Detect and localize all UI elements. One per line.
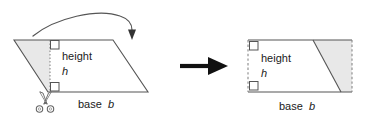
left-parallelogram-group: height h base b <box>14 40 148 110</box>
figure-root: height h base b <box>0 0 368 123</box>
curved-arrow-icon <box>33 13 136 40</box>
left-base-symbol: b <box>108 98 114 110</box>
left-right-angle-marker-bottom-icon <box>51 83 60 92</box>
right-rectangle-group: height h base b <box>248 40 352 112</box>
geometry-figure: height h base b <box>0 0 368 123</box>
left-height-symbol: h <box>62 65 68 77</box>
scissors-cut-icon <box>36 92 53 112</box>
left-height-label: height <box>62 50 92 62</box>
left-right-angle-marker-top-icon <box>51 41 60 50</box>
transform-arrow-icon <box>180 57 228 75</box>
right-right-angle-marker-top-icon <box>250 42 259 51</box>
right-height-label: height <box>261 52 291 64</box>
right-shaded-moved-piece <box>313 40 352 92</box>
right-base-label: base <box>279 100 303 112</box>
left-base-label: base <box>78 98 102 110</box>
right-base-symbol: b <box>309 100 315 112</box>
right-height-symbol: h <box>261 67 267 79</box>
right-right-angle-marker-bottom-icon <box>250 82 259 91</box>
